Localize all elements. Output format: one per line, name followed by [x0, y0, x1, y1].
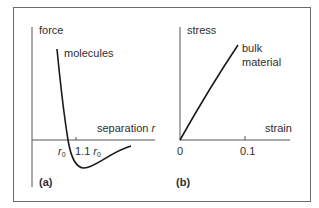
panel-b-x-label: strain: [265, 122, 292, 134]
tick-label-1.1r0: 1.1 r0: [75, 145, 101, 158]
tick-label-0.1: 0.1: [240, 145, 255, 157]
bulk-material-label-line1: bulk: [242, 42, 263, 54]
figure-frame: [14, 8, 311, 202]
panel-b-y-label: stress: [187, 24, 217, 36]
panel-a-tag: (a): [39, 176, 53, 188]
molecules-label: molecules: [64, 47, 114, 59]
panel-a-y-label: force: [39, 24, 63, 36]
panel-b: stress bulk material strain 0 0.1 (b): [176, 24, 292, 188]
figure: force molecules separation r r0 1.1 r0 (…: [0, 0, 319, 208]
bulk-material-label-line2: material: [242, 56, 281, 68]
tick-label-origin: 0: [177, 145, 183, 157]
stress-strain-curve: [180, 45, 238, 140]
panel-a: force molecules separation r r0 1.1 r0 (…: [32, 24, 156, 188]
figure-canvas: force molecules separation r r0 1.1 r0 (…: [0, 0, 319, 208]
panel-b-tag: (b): [176, 176, 190, 188]
panel-a-x-label: separation r: [97, 122, 156, 134]
tick-label-r0: r0: [58, 145, 66, 158]
